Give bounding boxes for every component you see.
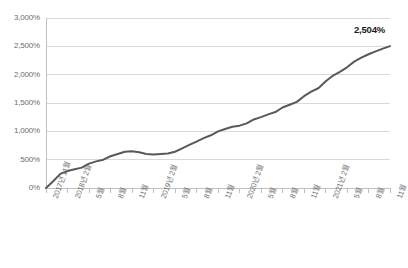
- end-value-annotation: 2,504%: [354, 24, 385, 35]
- gridlines: [46, 18, 390, 188]
